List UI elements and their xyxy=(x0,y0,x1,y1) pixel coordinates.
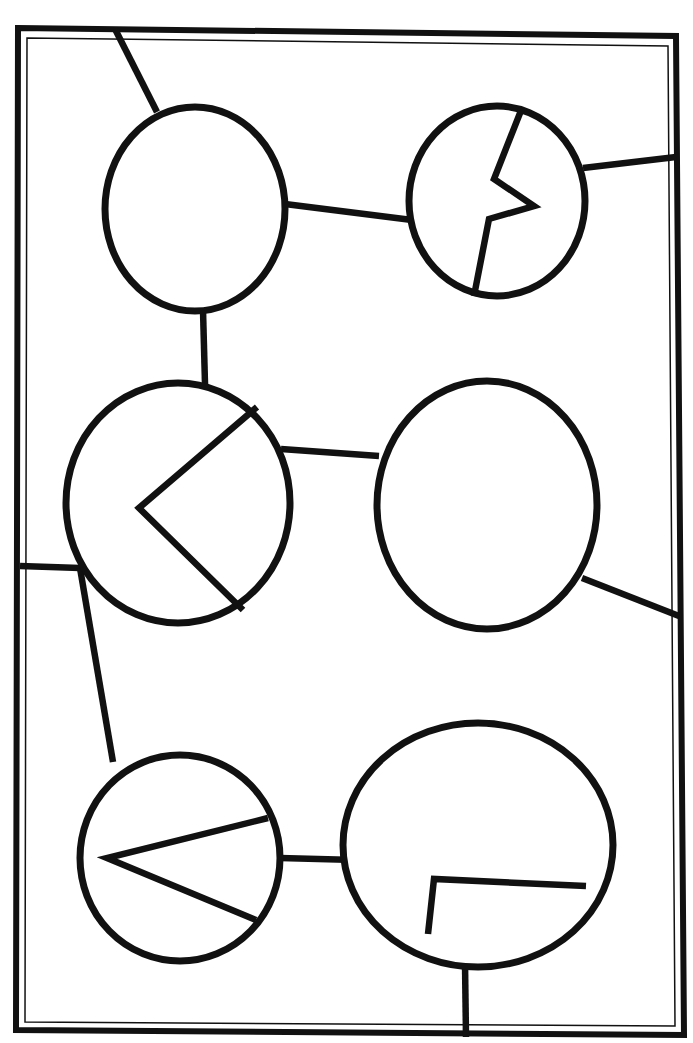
diagram-canvas xyxy=(0,0,693,1043)
node-bottom-right[interactable] xyxy=(343,723,613,967)
edge-topright-rightframe[interactable] xyxy=(583,157,676,168)
edge-middleleft-middleright[interactable] xyxy=(281,449,379,456)
node-middle-right[interactable] xyxy=(377,381,597,629)
node-top-right[interactable] xyxy=(409,106,585,296)
edge-topleft-topright[interactable] xyxy=(285,204,412,220)
edge-bottomright-bottomframe[interactable] xyxy=(465,963,466,1037)
edge-topleft-topframe[interactable] xyxy=(115,29,157,112)
edge-leftframe-middleleft[interactable] xyxy=(20,566,80,568)
diagram-svg xyxy=(0,0,693,1043)
edge-topleft-middleleft[interactable] xyxy=(203,310,205,384)
node-middle-left[interactable] xyxy=(66,383,290,623)
node-top-left[interactable] xyxy=(105,107,285,311)
node-layer xyxy=(66,106,613,967)
edge-middleright-rightframe[interactable] xyxy=(582,578,679,616)
